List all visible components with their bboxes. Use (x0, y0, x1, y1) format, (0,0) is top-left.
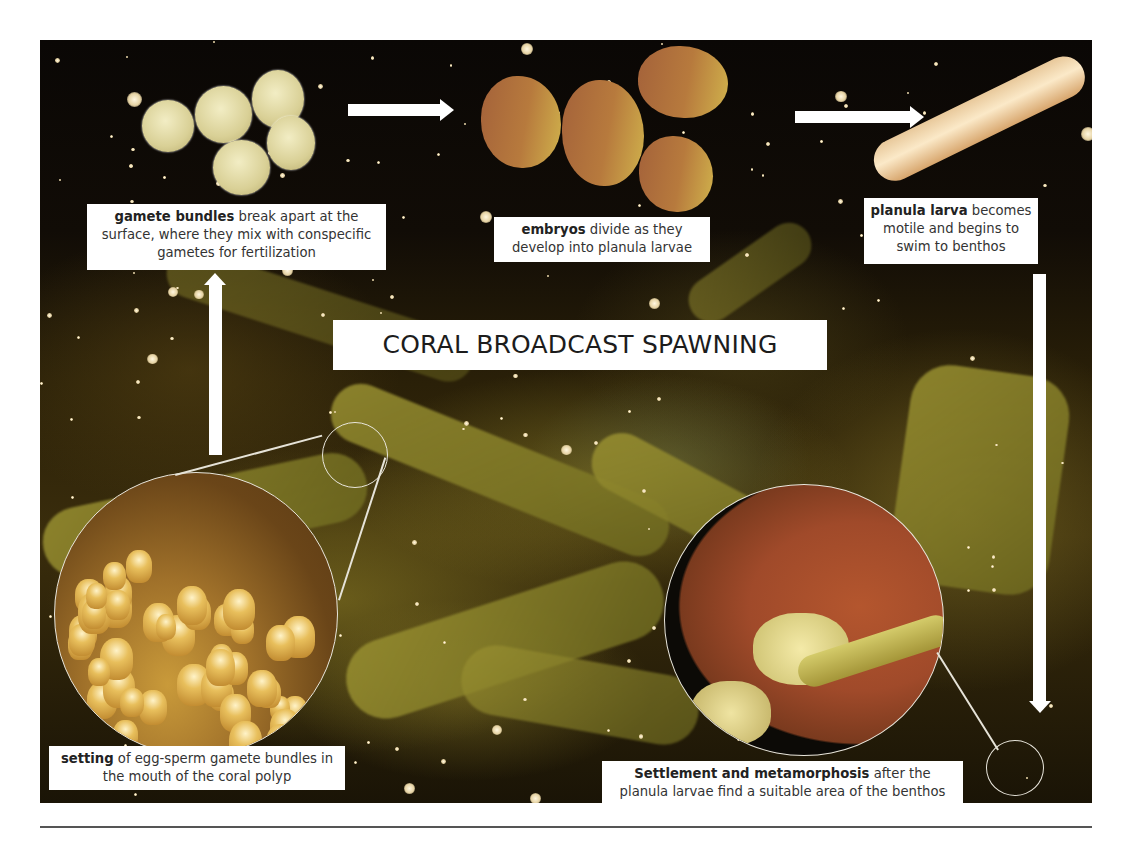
gamete-speck (513, 374, 518, 379)
coral-polyp (206, 649, 236, 686)
gamete-speck (649, 298, 660, 309)
gamete-speck (129, 164, 133, 168)
coral-polyp (156, 614, 177, 640)
gamete-speck (134, 308, 139, 313)
gamete-speck (682, 131, 686, 135)
gamete-speck (934, 62, 938, 66)
gamete-speck (967, 546, 970, 549)
gamete-speck (390, 295, 394, 299)
zoom-line (937, 652, 999, 750)
gamete-speck (371, 56, 375, 60)
gamete-speck (213, 41, 215, 43)
gamete-speck (437, 153, 440, 156)
coral-polyp (247, 670, 277, 707)
gamete-speck (372, 279, 374, 281)
gamete-speck (318, 84, 323, 89)
coral-polyp (177, 586, 207, 624)
gamete-speck (992, 555, 995, 558)
gamete-speck (820, 140, 823, 143)
gamete-speck (395, 747, 399, 751)
gamete-speck (130, 200, 133, 203)
gamete-speck (70, 418, 73, 421)
gamete-speck (751, 112, 755, 116)
label-bold: embryos (521, 222, 585, 237)
gamete-speck (657, 397, 662, 402)
label-text: of egg-sperm gamete bundles in the mouth… (103, 751, 333, 784)
gamete-speck (530, 793, 541, 803)
gamete-speck (639, 734, 643, 738)
label-bold: planula larva (871, 203, 968, 218)
gamete-speck (607, 729, 610, 732)
gamete-speck (450, 64, 453, 67)
gamete-speck (77, 336, 81, 340)
gamete-speck (170, 337, 174, 341)
gamete-speck (907, 92, 909, 94)
gamete-speck (136, 380, 140, 384)
gamete-speck (627, 659, 631, 663)
gamete-speck (523, 698, 526, 701)
gamete-speck (500, 417, 503, 420)
gamete-speck (967, 589, 970, 592)
gamete-speck (47, 313, 52, 318)
gamete-speck (59, 179, 61, 181)
gamete-speck (163, 176, 165, 178)
gamete-speck (1043, 184, 1046, 187)
gamete-speck (992, 588, 996, 592)
gamete-speck (412, 540, 417, 545)
gamete-speck (443, 641, 446, 644)
gamete-speck (346, 159, 350, 163)
gamete-speck (55, 58, 60, 63)
gamete-speck (137, 416, 140, 419)
gamete-speck (71, 496, 74, 499)
settlement-closeup-inset (664, 484, 944, 756)
label-setting: setting of egg-sperm gamete bundles in t… (49, 746, 345, 790)
gamete-speck (838, 199, 843, 204)
gamete-speck (464, 123, 466, 125)
coral-spawning-photo (40, 40, 1092, 803)
gamete-speck (970, 356, 975, 361)
label-bold: setting (61, 751, 114, 766)
gamete-speck (638, 204, 642, 208)
label-planula-larva: planula larva becomes motile and begins … (864, 198, 1038, 264)
gamete-speck (877, 299, 880, 302)
coral-polyp (120, 688, 143, 717)
coral-polyp (86, 583, 107, 609)
gamete-speck (110, 135, 113, 138)
gamete-speck (1081, 127, 1092, 141)
coral-polyp (266, 625, 295, 661)
gamete-speck (995, 444, 997, 446)
gamete-speck (462, 428, 465, 431)
gamete-speck (642, 489, 646, 493)
gamete-speck (126, 56, 128, 58)
gamete-speck (339, 634, 342, 637)
gamete-speck (131, 148, 134, 151)
gamete-speck (521, 43, 533, 55)
coral-polyp (103, 562, 126, 590)
gamete-speck (492, 725, 502, 735)
gamete-speck (842, 307, 846, 311)
coral-polyp (78, 723, 98, 748)
gamete-speck (367, 741, 370, 744)
label-bold: gamete bundles (115, 209, 235, 224)
gamete-speck (762, 174, 764, 176)
gamete-speck (480, 211, 492, 223)
gamete-speck (127, 92, 142, 107)
settlement-source-circle (986, 740, 1044, 796)
gamete-speck (334, 411, 336, 413)
gamete-speck (860, 234, 863, 237)
gamete-speck (844, 104, 848, 108)
label-settlement: Settlement and metamorphosis after the p… (602, 761, 963, 805)
gamete-speck (1061, 462, 1063, 464)
gamete-speck (404, 783, 415, 794)
gamete-speck (628, 410, 630, 412)
gamete-speck (835, 91, 847, 103)
gamete-speck (766, 142, 770, 146)
gamete-speck (594, 441, 598, 445)
label-embryos: embryos divide as they develop into plan… (494, 217, 710, 262)
gamete-speck (402, 216, 405, 219)
diagram-title: CORAL BROADCAST SPAWNING (333, 320, 827, 370)
coral-polyp (105, 590, 130, 621)
gamete-speck (441, 759, 446, 764)
gamete-speck (561, 445, 571, 455)
polyp-closeup-inset (54, 472, 338, 756)
